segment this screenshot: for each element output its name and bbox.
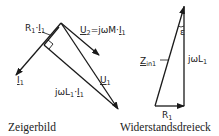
label-r1-i1: R1·I1 — [25, 23, 45, 35]
caption-zeigerbild: Zeigerbild — [8, 121, 56, 134]
label-u2: U2=jωM·I1 — [80, 25, 126, 37]
right-angle-mark — [48, 40, 53, 49]
label-jwl1: jωL1 — [187, 54, 207, 66]
diagram-canvas: R1·I1 U2=jωM·I1 I1 U1 jωL1·I1 Zeigerbild… — [0, 0, 219, 136]
label-epsilon: ε — [180, 27, 185, 37]
label-i1: I1 — [17, 75, 24, 87]
label-z-in1: Zin1 — [140, 56, 156, 68]
label-jwl1-i1: jωL1·I1 — [54, 87, 84, 99]
caption-widerstandsdreieck: Widerstandsdreieck — [120, 121, 211, 133]
phasor-diagram: R1·I1 U2=jωM·I1 I1 U1 jωL1·I1 Zeigerbild — [8, 23, 126, 134]
impedance-triangle: ε Zin1 jωL1 R1 Widerstandsdreieck — [120, 6, 211, 133]
z-in1-side — [155, 7, 184, 106]
